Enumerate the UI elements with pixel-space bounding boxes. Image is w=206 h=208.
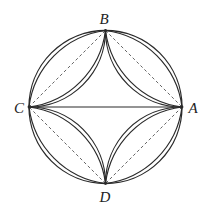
point-B [104,29,107,32]
arc-CB-outer [29,31,106,108]
point-C [28,106,31,109]
arc-AD-inner2 [106,107,183,184]
label-D: D [100,190,111,205]
arc-AD-outer [106,107,183,184]
point-A [181,106,184,109]
arc-DC-inner2 [29,107,106,184]
arc-BA-outer [106,31,183,108]
diagram-canvas [0,0,206,208]
arc-BA-inner [106,31,183,108]
arc-CB-inner [29,31,106,108]
label-A: A [188,101,197,116]
arc-AD-inner [106,107,183,184]
chord-CB [29,31,106,108]
label-B: B [99,12,108,27]
point-D [104,182,107,185]
chord-AD [106,107,183,184]
label-C: C [14,101,24,116]
chord-BA [106,31,183,108]
geometry-figure: B C A D [0,0,206,208]
arc-DC-outer [29,107,106,184]
arc-CB-inner2 [29,31,106,108]
arc-BA-inner2 [106,31,183,108]
chord-DC [29,107,106,184]
arc-DC-inner [29,107,106,184]
